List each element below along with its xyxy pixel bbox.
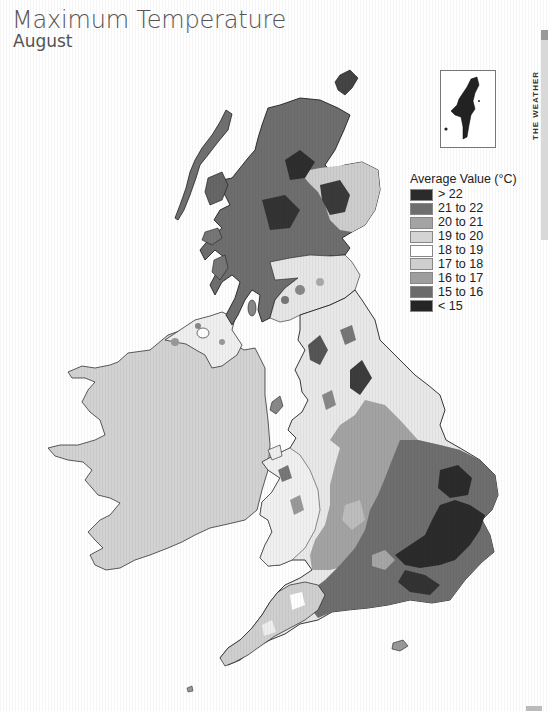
region-scilly xyxy=(187,686,193,692)
shetland-map xyxy=(441,71,495,147)
legend-swatch xyxy=(410,258,433,270)
legend-swatch xyxy=(410,189,433,201)
region-skye xyxy=(205,172,228,205)
legend-item: < 15 xyxy=(410,299,540,313)
side-tab xyxy=(541,40,548,240)
shetland-inset xyxy=(440,70,496,148)
legend-swatch xyxy=(410,217,433,229)
legend-swatch xyxy=(410,300,433,312)
map-legend: Average Value (°C) > 22 21 to 22 20 to 2… xyxy=(410,172,540,313)
legend-label: 20 to 21 xyxy=(438,216,483,229)
legend-swatch xyxy=(410,245,433,257)
legend-item: 15 to 16 xyxy=(410,285,540,299)
legend-item: 17 to 18 xyxy=(410,257,540,271)
legend-item: 21 to 22 xyxy=(410,202,540,216)
legend-item: 18 to 19 xyxy=(410,244,540,258)
legend-label: 15 to 16 xyxy=(438,286,483,299)
region-outer-hebrides xyxy=(175,110,232,220)
legend-item: 20 to 21 xyxy=(410,216,540,230)
page-marker xyxy=(526,706,542,711)
legend-label: > 22 xyxy=(438,188,463,201)
region-orkney xyxy=(335,70,358,95)
legend-label: 18 to 19 xyxy=(438,244,483,257)
legend-item: > 22 xyxy=(410,188,540,202)
legend-label: 17 to 18 xyxy=(438,258,483,271)
legend-swatch xyxy=(410,203,433,215)
region-ireland xyxy=(48,318,270,570)
region-isle-of-wight xyxy=(392,640,408,651)
legend-label: 16 to 17 xyxy=(438,272,483,285)
legend-swatch xyxy=(410,272,433,284)
legend-label: 19 to 20 xyxy=(438,230,483,243)
legend-item: 16 to 17 xyxy=(410,271,540,285)
legend-swatch xyxy=(410,231,433,243)
region-isle-of-man xyxy=(270,396,283,414)
legend-item: 19 to 20 xyxy=(410,230,540,244)
legend-title: Average Value (°C) xyxy=(410,172,540,186)
legend-label: < 15 xyxy=(438,300,463,313)
side-tab-label: THE WEATHER xyxy=(531,50,540,140)
legend-swatch xyxy=(410,286,433,298)
legend-label: 21 to 22 xyxy=(438,202,483,215)
